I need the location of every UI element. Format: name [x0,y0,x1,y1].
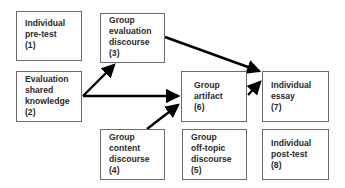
node-8-line-1: Individual [271,138,328,149]
node-2-line-2: shared [25,85,81,96]
node-7-line-1: Individual [271,80,328,91]
node-6-line-1: Group [194,80,246,91]
node-2-line-4: (2) [25,107,81,118]
node-1-line-1: Individual [25,18,81,29]
node-8-line-2: post-test [271,149,328,160]
node-5-line-2: off-topic [191,143,246,154]
node-4-line-1: Group [109,132,164,143]
node-1-line-2: pre-test [25,29,81,40]
node-individual-essay: Individual essay (7) [262,71,329,122]
node-4-line-4: (4) [109,165,164,176]
node-5-line-1: Group [191,132,246,143]
node-4-line-3: discourse [109,154,164,165]
node-group-evaluation-discourse: Group evaluation discourse (3) [100,13,165,63]
node-5-line-4: (5) [191,165,246,176]
node-1-line-3: (1) [25,40,81,51]
node-individual-post-test: Individual post-test (8) [262,129,329,180]
arrow-3-to-7 [165,37,259,71]
node-4-line-2: content [109,143,164,154]
node-individual-pre-test: Individual pre-test (1) [16,11,82,61]
node-5-line-3: discourse [191,154,246,165]
arrow-4-to-6 [147,105,178,129]
node-3-line-2: evaluation [109,26,164,37]
node-7-line-3: (7) [271,102,328,113]
node-3-line-3: discourse [109,37,164,48]
node-6-line-3: (6) [194,102,246,113]
node-group-off-topic-discourse: Group off-topic discourse (5) [182,129,247,180]
node-2-line-3: knowledge [25,96,81,107]
node-evaluation-shared-knowledge: Evaluation shared knowledge (2) [16,71,82,122]
arrow-2-to-3 [83,65,114,96]
node-group-artifact: Group artifact (6) [181,71,247,122]
arrow-6-to-7 [248,82,260,95]
node-8-line-3: (8) [271,160,328,171]
node-7-line-2: essay [271,91,328,102]
node-6-line-2: artifact [194,91,246,102]
diagram-canvas: Individual pre-test (1) Evaluation share… [0,0,345,188]
node-2-line-1: Evaluation [25,74,81,85]
node-group-content-discourse: Group content discourse (4) [100,129,165,180]
node-3-line-4: (3) [109,48,164,59]
node-3-line-1: Group [109,15,164,26]
